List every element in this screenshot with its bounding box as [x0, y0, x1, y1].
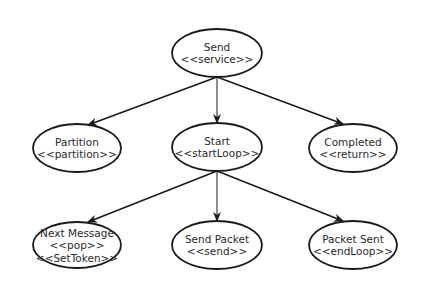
- node-send-packet: Send Packet<<send>>: [172, 221, 262, 269]
- node-label: Next Message: [40, 227, 114, 239]
- edge-start-to-packet-sent: [217, 171, 343, 221]
- node-packet-sent: Packet Sent<<endLoop>>: [309, 221, 397, 269]
- node-stereotype: <<SetToken>>: [36, 252, 118, 264]
- node-stereotype: <<partition>>: [37, 148, 117, 160]
- node-next-message: Next Message<<pop>><<SetToken>>: [33, 222, 121, 268]
- edge-send-to-partition: [88, 77, 217, 125]
- node-completed: Completed<<return>>: [309, 124, 397, 172]
- node-stereotype: <<pop>>: [50, 239, 105, 251]
- diagram-canvas: Send<<service>>Partition<<partition>>Sta…: [0, 0, 428, 287]
- nodes: Send<<service>>Partition<<partition>>Sta…: [33, 29, 397, 269]
- node-label: Send Packet: [185, 233, 249, 245]
- node-stereotype: <<send>>: [187, 245, 247, 257]
- node-partition: Partition<<partition>>: [33, 124, 121, 172]
- node-send: Send<<service>>: [172, 29, 262, 77]
- node-stereotype: <<return>>: [319, 148, 386, 160]
- node-start: Start<<startLoop>>: [172, 123, 262, 171]
- edge-send-to-completed: [217, 77, 343, 124]
- node-stereotype: <<startLoop>>: [175, 147, 260, 159]
- node-stereotype: <<endLoop>>: [313, 245, 393, 257]
- node-label: Send: [204, 41, 230, 53]
- node-label: Packet Sent: [322, 233, 384, 245]
- node-stereotype: <<service>>: [181, 53, 254, 65]
- node-label: Start: [204, 135, 230, 147]
- node-label: Partition: [55, 136, 99, 148]
- node-label: Completed: [324, 136, 381, 148]
- edge-start-to-next-message: [88, 171, 217, 222]
